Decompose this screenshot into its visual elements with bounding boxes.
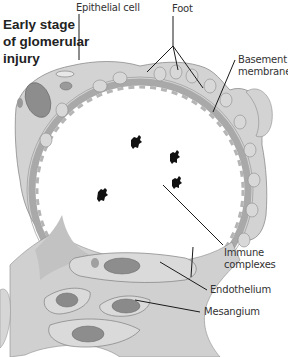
label-basement-line-1: Basement xyxy=(238,54,288,66)
label-immune-line-1: Immune xyxy=(224,247,276,259)
label-immune-complexes: Immune complexes xyxy=(224,247,276,271)
label-basement-line-2: membrane xyxy=(238,66,288,78)
label-endothelium: Endothelium xyxy=(210,284,271,296)
label-foot: Foot xyxy=(172,3,193,15)
glomerular-injury-diagram: Early stage of glomerular injury Epithel… xyxy=(0,0,288,357)
label-immune-line-2: complexes xyxy=(224,259,276,271)
mesangial-nucleus xyxy=(56,293,78,307)
title-line-3: injury xyxy=(3,50,89,67)
title-line-1: Early stage xyxy=(3,16,89,33)
label-epithelial-cell: Epithelial cell xyxy=(76,2,140,14)
title-line-2: of glomerular xyxy=(3,33,89,50)
endothelial-nucleus xyxy=(104,258,140,274)
label-mesangium: Mesangium xyxy=(204,306,260,318)
label-basement-membrane: Basement membrane xyxy=(238,54,288,78)
figure-title: Early stage of glomerular injury xyxy=(3,16,89,67)
